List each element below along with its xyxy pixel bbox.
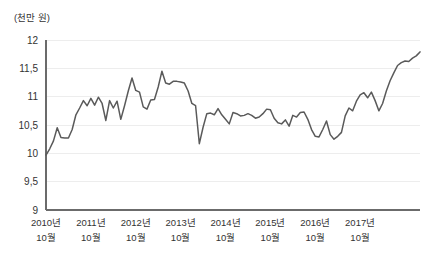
chart-plot-area: 99,51010,51111,512 2010년10월2011년10월2012년…: [0, 0, 436, 256]
gridlines: [46, 40, 420, 182]
x-axis-year-label: 2013년: [166, 217, 196, 228]
y-axis-tick-label: 10: [27, 148, 39, 159]
y-axis-tick-label: 12: [27, 35, 39, 46]
data-series-line: [46, 52, 420, 155]
x-axis-year-label: 2015년: [255, 217, 285, 228]
x-axis-month-label: 10월: [36, 232, 56, 243]
y-axis-tick-labels: 99,51010,51111,512: [19, 35, 39, 216]
x-axis-month-label: 10월: [81, 232, 101, 243]
line-chart: (천만 원) 99,51010,51111,512 2010년10월2011년1…: [0, 0, 436, 256]
x-axis-year-label: 2016년: [300, 217, 330, 228]
x-axis-year-label: 2011년: [76, 217, 105, 228]
x-axis-month-label: 10월: [305, 232, 325, 243]
x-axis-year-label: 2014년: [210, 217, 240, 228]
y-axis-tick-label: 9: [32, 205, 38, 216]
x-axis-year-label: 2012년: [121, 217, 151, 228]
x-axis-year-label: 2010년: [31, 217, 61, 228]
x-axis-month-label: 10월: [216, 232, 236, 243]
x-axis-month-label: 10월: [350, 232, 370, 243]
x-axis-month-label: 10월: [261, 232, 281, 243]
y-axis-tick-label: 10,5: [19, 120, 39, 131]
y-axis-tick-label: 11: [28, 91, 39, 102]
x-axis-year-label: 2017년: [345, 217, 375, 228]
y-axis-tick-label: 11,5: [19, 63, 38, 74]
x-axis-tick-labels: 2010년10월2011년10월2012년10월2013년10월2014년10월…: [31, 217, 375, 243]
x-axis-month-label: 10월: [126, 232, 146, 243]
x-axis-month-label: 10월: [171, 232, 191, 243]
y-axis-tick-label: 9,5: [24, 176, 38, 187]
